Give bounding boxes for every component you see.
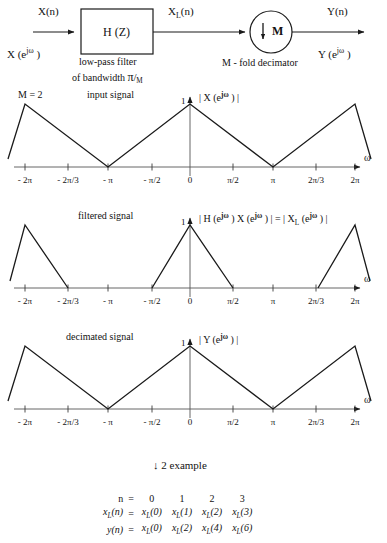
example-table: n = 0 1 2 3 xL(n) = xL(0) xL(1) xL(2) xL… [98,492,257,537]
intermediate-signal-base: X [168,5,176,17]
plot3-mag-exp: jω [220,333,228,341]
plot3-magnitude-label: | Y (ejω ) | [199,334,238,345]
plot2-mag-part2: ) X (e [229,213,255,224]
plot1-tick-2pi3: 2π/3 [308,175,324,185]
plot2-mag-part0: | H (e [199,213,221,224]
plot3-caption: decimated signal [66,332,133,342]
plot3-tick-neg2pi: - 2π [18,417,32,427]
cell-n-1: 1 [167,492,197,505]
plot3-peak-value: 1 [181,339,186,348]
plot1-ticks [25,164,355,171]
plot1-peak-value: 1 [181,97,186,106]
table-row: xL(n) = xL(0) xL(1) xL(2) xL(3) [98,505,257,521]
plot3-mag-part2: ) | [228,334,238,345]
plot2-spectrum-trace-left [10,225,68,288]
cell-y-3: xL(6) [227,521,257,537]
example-heading-text: 2 example [161,459,207,471]
intermediate-signal-tail: (n) [181,5,194,17]
cell-n-2: 2 [197,492,227,505]
cell-xl-0: xL(0) [137,505,167,521]
plot1-tick-zero: 0 [188,175,193,185]
plot1-magnitude-label: | X (ejω ) | [199,92,239,103]
table-row: y(n) = xL(0) xL(2) xL(4) xL(6) [98,521,257,537]
plot1-spectrum-trace [8,104,371,167]
filter-caption-line2: of bandwidth π/M [72,71,143,83]
plot3-tick-2pi: 2π [350,417,359,427]
plot1-tick-negpi: - π [103,175,113,185]
plot3-tick-zero: 0 [188,417,193,427]
plot2-ticks [25,285,355,292]
row-label-n: n [98,492,125,505]
row-label-xl-tail: (n) [111,506,123,517]
plot3-tick-negpi: - π [103,417,113,427]
input-signal-top-label: X(n) [38,6,59,17]
plot2-tick-negpi: - π [103,296,113,306]
output-spectrum-base: Y (e [318,48,337,60]
decimator-factor-label: M [272,25,283,37]
cell-y-0: xL(0) [137,521,167,537]
input-spectrum-base: X (e [7,48,26,60]
plot3-spectrum-trace [8,346,371,409]
plot2-tick-neg2pi: - 2π [18,296,32,306]
output-spectrum-tail: ) [344,48,350,60]
plot3-tick-pi2: π/2 [227,417,239,427]
plot2-tick-2pi: 2π [350,296,359,306]
plot2-tick-pi2: π/2 [227,296,239,306]
plot1-mag-part0: | X (e [199,92,221,103]
plot1-axis-label: ω [364,153,371,163]
input-spectrum-label: X (ejω ) [7,47,40,60]
cell-y-2: xL(4) [197,521,227,537]
row-label-y: y(n) [98,521,125,537]
decimator-circle [250,11,292,53]
filter-bandwidth-denominator: M [136,77,142,85]
decimator-caption: M - fold decimator [222,58,298,68]
plot2-tick-pi: π [271,296,276,306]
plot2-tick-2pi3: 2π/3 [308,296,324,306]
plot2-tick-zero: 0 [188,296,193,306]
row-eq-xl: = [125,505,137,521]
plot2-mag-exp2: jω [254,212,262,220]
plot2-spectrum-trace-center [152,225,233,288]
plot3-axis-label: ω [364,395,371,405]
plot2-spectrum-trace-right [318,225,370,288]
row-eq-n: = [125,492,137,505]
intermediate-signal-label: XL(n) [168,6,194,20]
plot2-mag-part8: ) | [317,213,327,224]
plot1-tick-2pi: 2π [350,175,359,185]
cell-n-0: 0 [137,492,167,505]
filter-caption-line1: low-pass filter [79,57,137,67]
plot2-mag-part6: (e [299,213,309,224]
output-signal-top-label: Y(n) [327,6,348,17]
cell-n-3: 3 [227,492,257,505]
plot1-tick-pi2: π/2 [227,175,239,185]
plot3-mag-part0: | Y (e [199,334,220,345]
plot3-tick-2pi3: 2π/3 [308,417,324,427]
plot1-caption: input signal [87,90,134,100]
input-spectrum-exp: jω [26,46,33,55]
plot1-tick-neg2pi3: - 2π/3 [57,175,78,185]
example-heading: ↓ 2 example [153,460,207,471]
cell-xl-3: xL(3) [227,505,257,521]
plot2-peak-value: 1 [181,218,186,227]
row-label-xl: xL(n) [98,505,125,521]
figure-root: X(n) X (ejω ) H (Z) low-pass filter of b… [0,0,387,543]
plot1-tick-pi: π [271,175,276,185]
output-spectrum-label: Y (ejω ) [318,47,351,60]
m-value-note: M = 2 [18,90,43,100]
plot2-mag-part4: ) | = | X [262,213,295,224]
cell-y-1: xL(2) [167,521,197,537]
plot1-mag-exp: jω [221,91,229,99]
plot2-mag-exp1: jω [221,212,229,220]
row-eq-y: = [125,521,137,537]
table-row: n = 0 1 2 3 [98,492,257,505]
plot3-tick-neg2pi3: - 2π/3 [57,417,78,427]
row-label-y-tail: (n) [111,524,123,535]
plot1-mag-part2: ) | [229,92,239,103]
plot3-tick-negpi2: - π/2 [144,417,161,427]
plot3-tick-pi: π [271,417,276,427]
plot2-magnitude-label: | H (ejω ) X (ejω ) | = | XL (ejω ) | [199,213,328,228]
plot2-caption: filtered signal [78,211,133,221]
plot1-tick-negpi2: - π/2 [144,175,161,185]
plot1-tick-neg2pi: - 2π [18,175,32,185]
plot2-tick-negpi2: - π/2 [144,296,161,306]
